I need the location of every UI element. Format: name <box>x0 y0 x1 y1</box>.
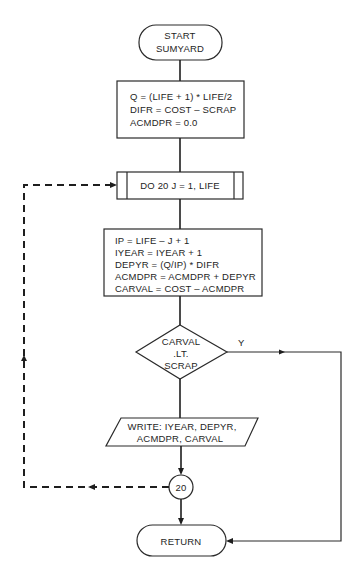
loop-back-arrow-end <box>110 182 117 188</box>
arrow-into-connector <box>178 468 184 475</box>
init-line-1: Q = (LIFE + 1) * LIFE/2 <box>130 91 232 102</box>
yes-branch-arrow-mid <box>279 350 285 355</box>
compute-line-1: IP = LIFE – J + 1 <box>115 235 190 246</box>
start-terminal: START SUMYARD <box>139 25 222 60</box>
output-line-2: ACMDPR, CARVAL <box>137 433 223 444</box>
output-line-1: WRITE: IYEAR, DEPYR, <box>127 421 236 432</box>
decision-diamond: CARVAL .LT. SCRAP <box>136 325 227 379</box>
do-loop-label: DO 20 J = 1, LIFE <box>140 180 220 191</box>
flowchart-canvas: START SUMYARD Q = (LIFE + 1) * LIFE/2 DI… <box>0 0 360 577</box>
init-line-3: ACMDPR = 0.0 <box>130 117 198 128</box>
start-label-line1: START <box>164 30 195 41</box>
decision-line-2: .LT. <box>173 348 188 359</box>
compute-process-box: IP = LIFE – J + 1 IYEAR = IYEAR + 1 DEPY… <box>104 229 262 296</box>
decision-line-1: CARVAL <box>162 336 200 347</box>
do-loop-box: DO 20 J = 1, LIFE <box>117 172 243 199</box>
yes-branch-label: Y <box>238 337 245 348</box>
loop-back-arrow-up <box>21 355 27 361</box>
write-output-box: WRITE: IYEAR, DEPYR, ACMDPR, CARVAL <box>106 418 258 446</box>
return-label: RETURN <box>161 536 202 547</box>
compute-line-2: IYEAR = IYEAR + 1 <box>115 247 202 258</box>
compute-line-4: ACMDPR = ACMDPR + DEPYR <box>115 271 256 282</box>
connector-label: 20 <box>176 482 187 493</box>
init-process-box: Q = (LIFE + 1) * LIFE/2 DIFR = COST – SC… <box>117 81 244 138</box>
yes-branch-arrow-end <box>226 538 233 544</box>
arrow-into-return <box>178 518 184 525</box>
decision-line-3: SCRAP <box>164 360 198 371</box>
start-label-line2: SUMYARD <box>156 43 204 54</box>
compute-line-3: DEPYR = (Q/IP) * DIFR <box>115 259 219 270</box>
init-line-2: DIFR = COST – SCRAP <box>130 104 236 115</box>
compute-line-5: CARVAL = COST – ACMDPR <box>115 283 244 294</box>
return-terminal: RETURN <box>137 525 226 556</box>
loop-back-arrow-left <box>88 484 95 490</box>
loop-end-connector: 20 <box>169 475 193 499</box>
